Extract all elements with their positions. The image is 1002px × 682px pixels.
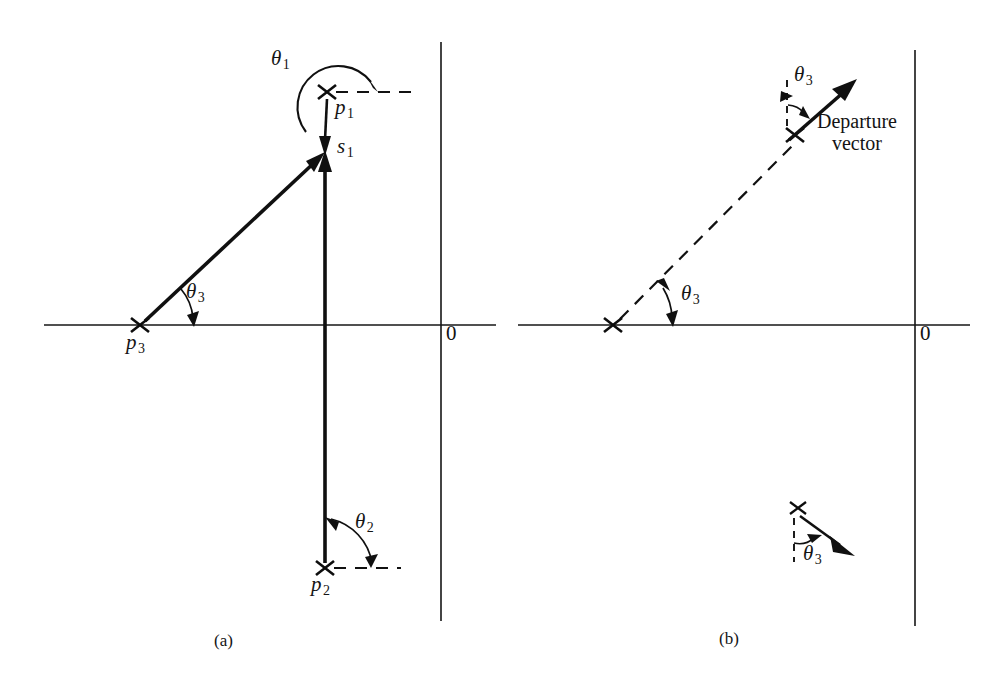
theta1-glyph: θ [271, 46, 281, 70]
panel-b-inset-cross [790, 502, 806, 514]
panel-b-theta3-departure-arrowhead-left [780, 91, 793, 102]
panel-a-p1-label: p1 [335, 97, 354, 121]
departure-vector-line2: vector [817, 132, 897, 154]
panel-a-group [44, 42, 496, 621]
panel-b-theta3-inset-label: θ3 [803, 543, 822, 567]
panel-b-theta3-departure-label: θ3 [794, 64, 813, 88]
p2-subscript: 2 [322, 583, 331, 598]
panel-a-p2-label: p2 [311, 574, 330, 598]
panel-a-theta2-arrowhead-bottom [365, 554, 378, 568]
panel-b-caption: (b) [719, 630, 739, 647]
theta2-subscript: 2 [365, 520, 374, 535]
panel-b-inset-arrowhead [830, 536, 855, 556]
theta3-subscript: 3 [196, 290, 205, 305]
panel-b-locus-dashed-line [620, 145, 793, 319]
panel-a-cross-p1 [318, 85, 336, 99]
theta3-locus-glyph: θ [681, 281, 691, 305]
panel-b-group [518, 50, 970, 626]
panel-a-theta3-label: θ3 [186, 281, 205, 305]
theta3-departure-subscript: 3 [804, 73, 813, 88]
s1-subscript: 1 [345, 145, 354, 160]
theta2-glyph: θ [355, 509, 365, 533]
departure-vector-line1: Departure [817, 110, 897, 132]
panel-b-origin-label: 0 [920, 323, 931, 344]
p1-glyph: p [335, 95, 346, 119]
theta3-glyph: θ [186, 279, 196, 303]
s1-glyph: s [337, 134, 345, 158]
panel-a-theta2-label: θ2 [355, 511, 374, 535]
panel-a-vector-p3-to-s1 [145, 161, 316, 321]
panel-b-departure-vector-label: Departure vector [817, 110, 897, 155]
theta1-subscript: 1 [281, 57, 290, 72]
panel-a-vector-p1-to-s1 [325, 99, 327, 140]
theta3-departure-glyph: θ [794, 62, 804, 86]
p3-subscript: 3 [137, 341, 146, 356]
theta3-inset-glyph: θ [803, 541, 813, 565]
theta3-locus-subscript: 3 [691, 292, 700, 307]
panel-a-caption: (a) [214, 632, 233, 649]
p2-glyph: p [311, 572, 322, 596]
p1-subscript: 1 [346, 106, 355, 121]
p3-glyph: p [126, 330, 137, 354]
panel-b-theta3-locus-label: θ3 [681, 283, 700, 307]
panel-a-p3-label: p3 [126, 332, 145, 356]
panel-a-origin-label: 0 [446, 323, 457, 344]
theta3-inset-subscript: 3 [813, 552, 822, 567]
panel-a-theta1-label: θ1 [271, 48, 290, 72]
panel-a-arrowhead-p1-to-s1 [319, 136, 331, 156]
panel-a-s1-label: s1 [337, 136, 354, 160]
panel-a-theta1-arrowhead [366, 75, 378, 92]
figure-canvas [0, 0, 1002, 682]
figure-root: θ1 p1 s1 p2 p3 θ2 θ3 0 (a) θ3 θ3 θ3 Depa… [0, 0, 1002, 682]
panel-b-theta3-departure-arrowhead [799, 106, 810, 119]
